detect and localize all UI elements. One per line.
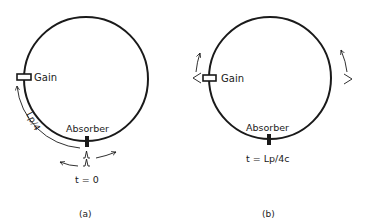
panel-a: Gain Absorber Lp/4 t = 0 (a)	[17, 17, 148, 219]
pulse-arrow-right-a	[96, 152, 116, 158]
absorber-element-a	[85, 136, 89, 147]
pulse-clockwise-a	[83, 151, 90, 158]
gain-element-a	[17, 74, 31, 80]
pulse-arrow-left-b	[196, 53, 200, 72]
pulse-counterclockwise-a	[83, 159, 90, 166]
distance-label-a: Lp/4	[24, 110, 42, 132]
pulse-right-b	[344, 74, 352, 84]
gain-label-b: Gain	[221, 73, 244, 84]
gain-element-b	[203, 75, 216, 81]
time-label-b: t = Lp/4c	[246, 153, 290, 164]
ring-laser-diagram: Gain Absorber Lp/4 t = 0 (a) Gain Absorb…	[0, 0, 365, 224]
panel-b: Gain Absorber t = Lp/4c (b)	[193, 17, 352, 219]
gain-label-a: Gain	[34, 72, 57, 83]
time-label-a: t = 0	[75, 174, 99, 185]
absorber-element-b	[267, 134, 271, 145]
absorber-label-b: Absorber	[246, 122, 289, 133]
pulse-arrow-left-a	[60, 162, 78, 166]
pulse-arrow-right-b	[341, 50, 347, 72]
caption-a: (a)	[79, 209, 92, 219]
caption-b: (b)	[262, 209, 275, 219]
absorber-label-a: Absorber	[66, 123, 109, 134]
pulse-left-b	[193, 73, 201, 83]
